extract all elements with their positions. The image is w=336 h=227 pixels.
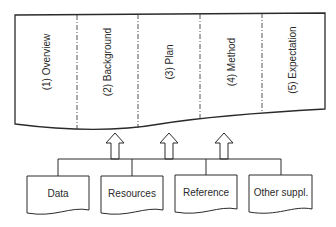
source-label-reference: Reference bbox=[183, 187, 230, 198]
section-label-method: (4) Method bbox=[226, 38, 237, 86]
arrow-up-icon bbox=[160, 133, 178, 159]
source-label-resources: Resources bbox=[108, 188, 156, 199]
section-label-background: (2) Background bbox=[102, 28, 113, 96]
section-label-plan: (3) Plan bbox=[164, 44, 175, 79]
section-label-expectation: (5) Expectation bbox=[287, 26, 298, 93]
arrow-up-icon bbox=[106, 133, 124, 159]
section-label-overview: (1) Overview bbox=[41, 33, 52, 90]
proposal-structure-diagram: (1) Overview (2) Background (3) Plan (4)… bbox=[0, 0, 336, 227]
up-arrows bbox=[106, 133, 233, 159]
arrow-up-icon bbox=[215, 133, 233, 159]
source-label-other: Other suppl. bbox=[254, 187, 308, 198]
connector-lines bbox=[58, 159, 281, 176]
source-label-data: Data bbox=[47, 188, 69, 199]
